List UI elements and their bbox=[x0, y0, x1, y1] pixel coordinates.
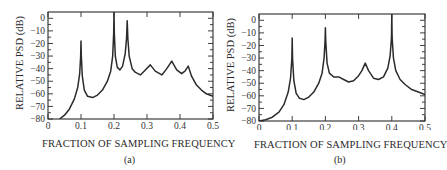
y-tick-label: −50 bbox=[30, 76, 45, 86]
y-tick-label: −80 bbox=[30, 114, 45, 124]
x-tick-label: 0.3 bbox=[141, 121, 153, 130]
x-tick-label: 0.1 bbox=[75, 121, 87, 130]
x-tick-label: 0.5 bbox=[419, 123, 431, 130]
x-axis-label-b: FRACTION OF SAMPLING FREQUENCY bbox=[254, 139, 447, 150]
y-tick-label: −20 bbox=[30, 39, 45, 49]
y-tick-label: −50 bbox=[241, 78, 256, 88]
y-tick-label: −80 bbox=[241, 116, 256, 126]
y-tick-label: 0 bbox=[40, 13, 45, 23]
y-tick-label: −60 bbox=[30, 89, 45, 99]
psd-curve bbox=[259, 14, 425, 121]
caption-a: (a) bbox=[124, 154, 135, 165]
x-tick-label: 0.1 bbox=[286, 123, 298, 130]
x-tick-label: 0.3 bbox=[353, 123, 365, 130]
y-tick-label: −10 bbox=[30, 26, 45, 36]
x-tick-label: 0.2 bbox=[108, 121, 120, 130]
y-tick-label: −70 bbox=[30, 102, 45, 112]
x-tick-label: 0.4 bbox=[386, 123, 398, 130]
x-tick-label: 0.2 bbox=[319, 123, 331, 130]
caption-b: (b) bbox=[334, 154, 346, 165]
y-axis-label-b: RELATIVE PSD (dB) bbox=[225, 18, 236, 112]
y-tick-label: −30 bbox=[30, 51, 45, 61]
plot-area-a: 0−10−20−30−40−50−60−70−8000.10.20.30.40.… bbox=[0, 0, 222, 130]
chart-panel-b: 0−10−20−30−40−50−60−70−8000.10.20.30.40.… bbox=[222, 0, 444, 170]
y-tick-label: 0 bbox=[251, 15, 256, 25]
chart-panel-a: 0−10−20−30−40−50−60−70−8000.10.20.30.40.… bbox=[0, 0, 222, 170]
y-tick-label: −30 bbox=[241, 53, 256, 63]
plot-area-b: 0−10−20−30−40−50−60−70−8000.10.20.30.40.… bbox=[222, 0, 444, 130]
x-axis-label-a: FRACTION OF SAMPLING FREQUENCY bbox=[42, 138, 235, 149]
x-tick-label: 0.5 bbox=[207, 121, 219, 130]
x-tick-label: 0 bbox=[46, 121, 51, 130]
y-axis-label-a: RELATIVE PSD (dB) bbox=[14, 16, 25, 110]
x-tick-label: 0.4 bbox=[174, 121, 186, 130]
y-tick-label: −20 bbox=[241, 41, 256, 51]
y-tick-label: −60 bbox=[241, 91, 256, 101]
y-tick-label: −40 bbox=[30, 64, 45, 74]
x-tick-label: 0 bbox=[257, 123, 262, 130]
y-tick-label: −10 bbox=[241, 28, 256, 38]
y-tick-label: −40 bbox=[241, 66, 256, 76]
y-tick-label: −70 bbox=[241, 104, 256, 114]
psd-curve bbox=[60, 12, 213, 119]
